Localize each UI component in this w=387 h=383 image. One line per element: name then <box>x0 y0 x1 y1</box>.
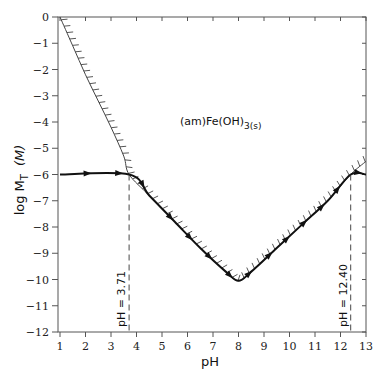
solubility-chart: 12345678910111213 0−1−2−3−4−5−6−7−8−9−10… <box>0 0 387 383</box>
x-tick-label: 8 <box>235 340 242 353</box>
hatch-mark <box>120 146 126 147</box>
hatch-mark <box>96 95 102 96</box>
titration-path-series <box>60 169 366 281</box>
y-axis-title: log MT(M) <box>12 145 30 216</box>
hatch-mark <box>73 45 79 46</box>
ph-marker-label: pH = 12.40 <box>337 264 350 327</box>
ph-marker-label: pH = 3.71 <box>115 271 128 327</box>
y-tick-label: −7 <box>33 195 49 208</box>
hatch-mark <box>128 172 134 173</box>
x-axis-title: pH <box>201 354 219 369</box>
hatch-mark <box>125 160 131 161</box>
hatch-mark <box>126 167 132 168</box>
x-tick-label: 9 <box>261 340 268 353</box>
y-tick-label: −4 <box>33 116 49 129</box>
path-line <box>60 173 366 281</box>
hatch-mark <box>108 121 114 122</box>
hatch-mark <box>363 156 365 162</box>
hatch-mark <box>99 102 105 103</box>
x-tick-label: 3 <box>108 340 115 353</box>
hatch-mark <box>64 26 70 27</box>
hatch-mark <box>84 70 90 71</box>
y-tick-label: −5 <box>33 142 49 155</box>
y-tick-label: −9 <box>33 247 49 260</box>
x-tick-label: 1 <box>57 340 64 353</box>
hatch-mark <box>61 19 67 20</box>
hatch-mark <box>81 64 87 65</box>
hatch-mark <box>67 32 73 33</box>
arrow-icon <box>84 170 92 176</box>
x-tick-label: 11 <box>308 340 322 353</box>
hatch-mark <box>352 165 355 171</box>
y-tick-label: −11 <box>26 300 49 313</box>
hatch-mark <box>102 108 108 109</box>
y-tick-label: −8 <box>33 221 49 234</box>
x-tick-label: 13 <box>359 340 373 353</box>
species-label: (am)Fe(OH)3(s) <box>180 115 261 131</box>
hatch-mark <box>114 133 120 134</box>
y-axis: 0−1−2−3−4−5−6−7−8−9−10−11−12 <box>26 11 366 339</box>
hatch-mark <box>75 51 81 52</box>
hatch-mark <box>70 38 76 39</box>
x-tick-label: 4 <box>133 340 140 353</box>
boundary-line <box>60 17 366 281</box>
hatch-mark <box>87 77 93 78</box>
x-tick-label: 6 <box>184 340 191 353</box>
hatch-mark <box>117 140 123 141</box>
annotations: (am)Fe(OH)3(s)pH = 3.71pH = 12.40 <box>115 115 351 332</box>
hatch-mark <box>111 127 117 128</box>
hatch-mark <box>93 89 99 90</box>
plot-frame <box>58 17 366 332</box>
arrow-icon <box>115 170 123 177</box>
plot-border <box>58 17 366 332</box>
hatch-mark <box>358 160 360 166</box>
x-tick-label: 7 <box>210 340 217 353</box>
y-tick-label: −2 <box>33 64 49 77</box>
y-tick-label: 0 <box>42 11 49 24</box>
hatch-mark <box>78 58 84 59</box>
y-tick-label: −6 <box>33 169 49 182</box>
x-tick-label: 5 <box>159 340 166 353</box>
y-tick-label: −1 <box>33 37 49 50</box>
hatch-mark <box>105 114 111 115</box>
x-axis: 12345678910111213 <box>57 17 374 353</box>
y-tick-label: −10 <box>26 274 49 287</box>
y-axis-title-text: log MT(M) <box>12 145 30 216</box>
solubility-boundary-series <box>60 17 366 281</box>
y-tick-label: −3 <box>33 90 49 103</box>
y-tick-label: −12 <box>26 326 49 339</box>
x-tick-label: 10 <box>283 340 297 353</box>
x-tick-label: 12 <box>334 340 348 353</box>
x-tick-label: 2 <box>82 340 89 353</box>
hatch-mark <box>90 83 96 84</box>
